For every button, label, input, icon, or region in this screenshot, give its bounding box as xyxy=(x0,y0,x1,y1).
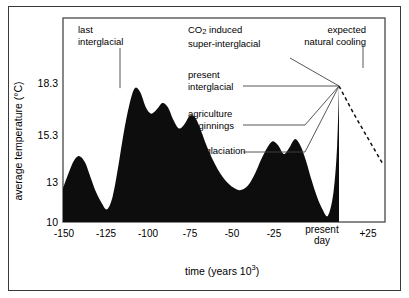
leader-co2-induced xyxy=(290,58,339,86)
leader-agriculture-beginnings xyxy=(243,86,339,125)
chart-canvas xyxy=(0,0,409,298)
temperature-area xyxy=(63,86,339,222)
leader-last-glaciation xyxy=(243,86,339,152)
climate-chart-figure: average temperature (°C) 18.3 15.3 13 10… xyxy=(0,0,409,298)
expected-cooling-dashed-line xyxy=(339,86,383,165)
